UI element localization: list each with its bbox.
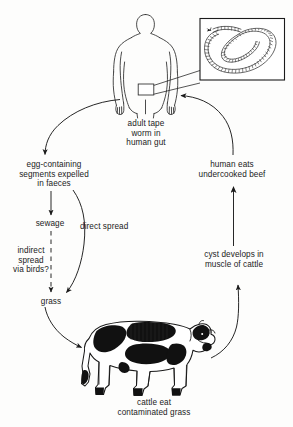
label-adult-tapeworm: adult tape worm in human gut [104,119,188,148]
tapeworm-inset-box [200,19,285,81]
cow-illustration [81,320,215,395]
arrow-beef-to-human [181,96,233,155]
arrow-grass-to-cattle [45,307,82,347]
label-grass: grass [30,297,72,307]
label-sewage: sewage [24,219,76,229]
label-cyst-develops-in-muscle-of-cattle: cyst develops in muscle of cattle [182,250,286,269]
arrow-direct-spread [67,190,85,293]
label-direct-spread: direct spread [80,222,140,232]
label-cattle-eat-contaminated-grass: cattle eat contaminated grass [92,398,216,417]
label-indirect-spread-via-birds: indirect spread via birds? [2,246,60,275]
inset-leader-lines [154,71,200,95]
arrow-cattle-to-cyst [211,285,239,358]
label-egg-containing-segments: egg-containing segments expelled in faec… [2,160,106,189]
diagram-canvas [0,0,293,427]
label-human-eats-undercooked-beef: human eats undercooked beef [176,160,288,179]
human-figure-illustration [113,15,178,119]
human-gut-rectangle [138,84,154,95]
tapeworm-life-cycle-diagram: adult tape worm in human gut egg-contain… [0,0,293,427]
